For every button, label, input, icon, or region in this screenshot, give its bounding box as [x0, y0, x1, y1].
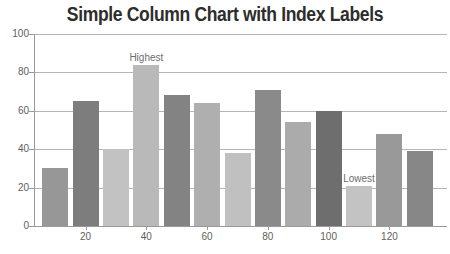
chart-title: Simple Column Chart with Index Labels [23, 3, 428, 26]
x-axis-label: 80 [251, 231, 285, 243]
x-axis-tick [86, 226, 87, 230]
x-axis-label: 100 [312, 231, 346, 243]
index-label-lowest: Lowest [329, 173, 389, 185]
y-axis-tick [29, 111, 34, 112]
x-axis-line [34, 226, 447, 227]
x-axis-tick [329, 226, 330, 230]
x-axis-label: 60 [190, 231, 224, 243]
bar [225, 153, 251, 226]
y-axis-line [34, 34, 35, 226]
gridline-y-100 [34, 34, 447, 35]
bar [42, 168, 68, 226]
plot-area: 02040608010020406080100120HighestLowest [34, 34, 447, 226]
x-axis-tick [389, 226, 390, 230]
y-axis-tick [29, 226, 34, 227]
y-axis-label: 20 [1, 182, 29, 194]
x-axis-label: 20 [69, 231, 103, 243]
bar [164, 95, 190, 226]
y-axis-label: 60 [1, 105, 29, 117]
x-axis-label: 120 [372, 231, 406, 243]
index-label-highest: Highest [116, 52, 176, 64]
y-axis-tick [29, 149, 34, 150]
x-axis-tick [146, 226, 147, 230]
y-axis-label: 40 [1, 143, 29, 155]
y-axis-tick [29, 72, 34, 73]
x-axis-label: 40 [129, 231, 163, 243]
bar [194, 103, 220, 226]
x-axis-tick [207, 226, 208, 230]
y-axis-label: 0 [1, 220, 29, 232]
bar [285, 122, 311, 226]
bar [103, 149, 129, 226]
bar [133, 65, 159, 226]
y-axis-label: 100 [1, 28, 29, 40]
y-axis-label: 80 [1, 66, 29, 78]
column-chart: Simple Column Chart with Index Labels 02… [0, 0, 450, 254]
gridline-y-80 [34, 72, 447, 73]
y-axis-tick [29, 188, 34, 189]
bar [73, 101, 99, 226]
x-axis-tick [268, 226, 269, 230]
bar [255, 90, 281, 226]
bar [407, 151, 433, 226]
y-axis-tick [29, 34, 34, 35]
bar [346, 186, 372, 226]
bar [316, 111, 342, 226]
